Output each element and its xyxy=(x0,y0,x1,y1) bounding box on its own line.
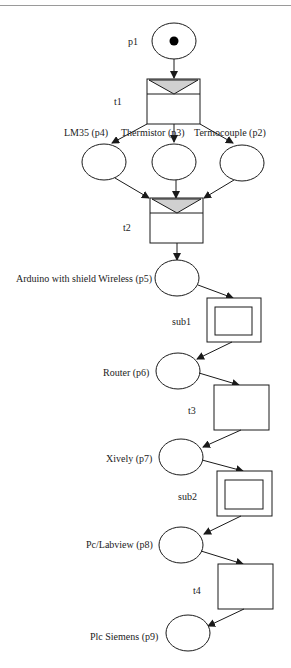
arc-sub1-p6 xyxy=(197,342,232,359)
place-p1[interactable] xyxy=(152,23,196,59)
place-p8[interactable] xyxy=(159,527,203,563)
label-p4: LM35 (p4) xyxy=(64,127,108,139)
place-p7[interactable] xyxy=(159,439,203,475)
arc-p2-t2 xyxy=(204,180,234,198)
arc-p7-sub2 xyxy=(202,460,243,471)
label-p5: Arduino with shield Wireless (p5) xyxy=(16,273,152,285)
transition-t3[interactable] xyxy=(214,385,269,430)
token-icon xyxy=(170,37,179,46)
label-p1: p1 xyxy=(128,36,138,48)
place-p3[interactable] xyxy=(152,144,196,180)
arc-sub2-p8 xyxy=(204,516,241,534)
transition-t1[interactable] xyxy=(147,79,200,124)
label-sub1: sub1 xyxy=(172,316,191,328)
transition-t4[interactable] xyxy=(218,564,273,609)
label-t4: t4 xyxy=(193,585,201,597)
place-p6[interactable] xyxy=(156,353,200,389)
transition-t2[interactable] xyxy=(150,198,203,243)
arc-t3-p7 xyxy=(203,430,241,447)
arc-p5-sub1 xyxy=(198,285,233,298)
subnet-sub1[interactable] xyxy=(207,298,261,342)
arc-p8-t4 xyxy=(201,551,243,564)
label-p3: Thermistor (p3) xyxy=(121,127,185,139)
label-p9: Plc Siemens (p9) xyxy=(90,631,158,643)
subnet-sub2[interactable] xyxy=(217,471,272,516)
petri-net-canvas xyxy=(0,0,291,668)
label-p2: Termocouple (p2) xyxy=(194,127,266,139)
arc-p4-t2 xyxy=(115,178,149,198)
label-p6: Router (p6) xyxy=(103,367,149,379)
label-t2: t2 xyxy=(123,222,131,234)
label-sub2: sub2 xyxy=(178,491,197,503)
place-p4[interactable] xyxy=(82,144,126,180)
arc-t4-p9 xyxy=(208,609,244,626)
label-p7: Xively (p7) xyxy=(106,453,152,465)
place-p9[interactable] xyxy=(166,615,210,651)
label-t1: t1 xyxy=(114,96,122,108)
arc-p6-t3 xyxy=(199,373,239,385)
label-p8: Pc/Labview (p8) xyxy=(86,539,153,551)
label-t3: t3 xyxy=(188,405,196,417)
place-p2[interactable] xyxy=(220,145,264,181)
place-p5[interactable] xyxy=(155,260,199,296)
